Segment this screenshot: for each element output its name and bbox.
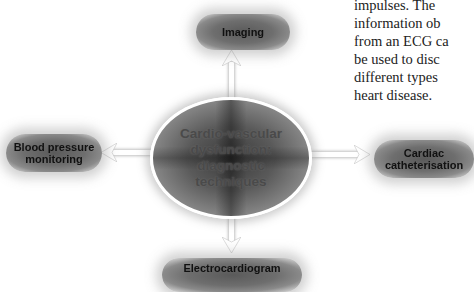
- node-electrocardiogram: Electrocardiogram: [162, 258, 302, 292]
- arrowhead-up-icon: [222, 50, 241, 66]
- node-imaging: Imaging: [196, 14, 290, 50]
- arrowhead-right-icon: [354, 145, 370, 164]
- center-label-line: Cardio-vascular: [161, 126, 301, 142]
- body-text-line: from an ECG ca: [354, 32, 474, 50]
- node-label: Electrocardiogram: [183, 262, 280, 274]
- body-text-excerpt: impulses. The information ob from an ECG…: [354, 0, 474, 104]
- arrowhead-down-icon: [222, 237, 241, 253]
- center-ellipse: Cardio-vascular dysfunction: diagnostic …: [150, 97, 312, 219]
- node-label-line: Blood pressure: [14, 141, 95, 153]
- body-text-line: different types: [354, 68, 474, 86]
- node-label-line: Cardiac: [404, 147, 444, 159]
- node-label: Blood pressure monitoring: [14, 141, 95, 165]
- node-blood-pressure-monitoring: Blood pressure monitoring: [6, 134, 102, 172]
- arrowhead-left-icon: [101, 143, 117, 162]
- body-text-line: heart disease.: [354, 86, 474, 104]
- center-label-line: diagnostic: [161, 158, 301, 174]
- node-label-line: catheterisation: [385, 159, 463, 171]
- center-label: Cardio-vascular dysfunction: diagnostic …: [161, 126, 301, 190]
- node-label: Imaging: [222, 26, 264, 38]
- node-label-line: monitoring: [25, 153, 82, 165]
- node-label: Cardiac catheterisation: [385, 147, 463, 171]
- node-cardiac-catheterisation: Cardiac catheterisation: [374, 140, 474, 178]
- center-label-line: dysfunction:: [161, 142, 301, 158]
- center-label-line: techniques: [161, 174, 301, 190]
- body-text-line: impulses. The: [354, 0, 474, 14]
- body-text-line: be used to disc: [354, 50, 474, 68]
- body-text-line: information ob: [354, 14, 474, 32]
